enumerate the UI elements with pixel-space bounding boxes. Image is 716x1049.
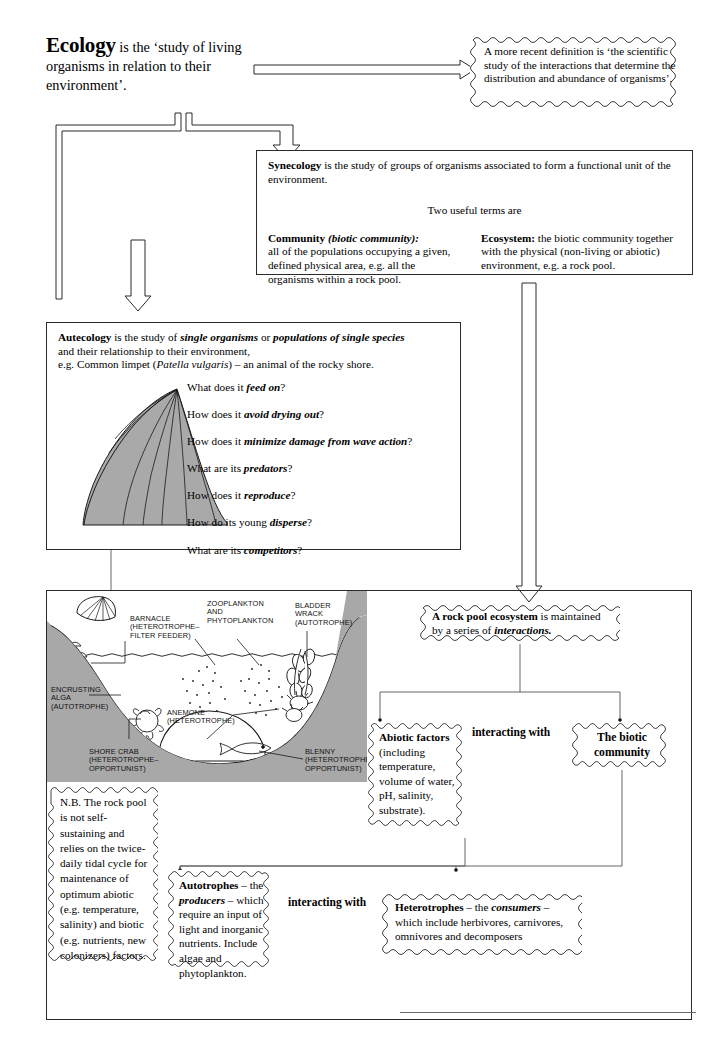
connector-abiotic-to-autotrophes xyxy=(180,838,470,870)
arrow-title-to-definition xyxy=(254,60,476,80)
consumers-emphasis: consumers xyxy=(491,901,541,913)
title-block: Ecology is the ‘study of living organism… xyxy=(46,36,266,95)
biotic-community-box: The biotic community xyxy=(572,722,672,770)
autecology-line3: e.g. Common limpet (Patella vulgaris) – … xyxy=(58,358,449,372)
ecosystem-term: Ecosystem: xyxy=(481,232,535,244)
arrow-synecology-to-rockpool-ecosystem xyxy=(516,283,550,603)
ecosystem-text: Ecosystem: the biotic community together… xyxy=(481,232,681,273)
nb-note-box: N.B. The rock pool is not self-sustainin… xyxy=(48,786,158,986)
autecology-lead: Autecology is the study of single organi… xyxy=(58,331,449,345)
page-bottom-rule xyxy=(400,1012,696,1013)
species-name: Patella vulgaris xyxy=(157,358,229,370)
nb-note-text: N.B. The rock pool is not self-sustainin… xyxy=(48,786,158,963)
autecology-line2: and their relationship to their environm… xyxy=(58,345,449,359)
rock-pool-ecosystem-box: A rock pool ecosystem is maintained by a… xyxy=(420,604,620,644)
biotic-community-title: The biotic community xyxy=(572,722,672,760)
autotrophes-tail: – which require an input of light and in… xyxy=(179,894,264,979)
synecology-lead: Synecology is the study of groups of org… xyxy=(268,159,681,186)
question-item: What are its predators? xyxy=(187,462,447,476)
interacting-with-lower: interacting with xyxy=(288,896,366,910)
question-item: What are its competitors? xyxy=(187,544,447,558)
autecology-example-tail: ) – an animal of the rocky shore. xyxy=(228,358,373,370)
illustration-label-barnacle: BARNACLE (HETEROTROPHE– FILTER FEEDER) xyxy=(130,615,200,640)
synecology-box: Synecology is the study of groups of org… xyxy=(256,150,693,275)
question-item: How does it avoid drying out? xyxy=(187,408,447,422)
recent-definition-box: A more recent definition is ‘the scienti… xyxy=(470,36,690,108)
rock-pool-ecosystem-text: A rock pool ecosystem is maintained by a… xyxy=(420,604,620,637)
two-useful-terms: Two useful terms are xyxy=(268,204,681,218)
producers-emphasis: producers xyxy=(179,894,225,906)
autecology-example-lead: e.g. Common limpet ( xyxy=(58,358,157,370)
heterotrophes-text: Heterotrophes – the consumers – which in… xyxy=(382,893,582,944)
interactions-emphasis: interactions. xyxy=(494,624,552,636)
arrow-to-autecology xyxy=(125,240,159,312)
community-heading: Community (biotic community): xyxy=(268,232,463,246)
autotrophes-box: Autotrophes – the producers – which requ… xyxy=(168,870,276,978)
recent-definition-text: A more recent definition is ‘the scienti… xyxy=(470,36,690,86)
autecology-questions: What does it feed on? How does it avoid … xyxy=(187,381,447,557)
community-term-italic: (biotic community): xyxy=(328,232,419,244)
illustration-label-bladder-wrack: BLADDER WRACK (AUTOTROPHE) xyxy=(295,602,352,627)
autecology-or: or xyxy=(261,331,270,343)
autotrophes-text: Autotrophes – the producers – which requ… xyxy=(168,870,276,980)
autecology-single-organisms: single organisms xyxy=(180,331,258,343)
illustration-label-shore-crab: SHORE CRAB (HETEROTROPHE– OPPORTUNIST) xyxy=(89,748,159,773)
autecology-line1a: is the study of xyxy=(114,331,177,343)
title-text: Ecology is the ‘study of living organism… xyxy=(46,36,266,95)
heterotrophes-box: Heterotrophes – the consumers – which in… xyxy=(382,893,582,960)
autecology-box: Autecology is the study of single organi… xyxy=(46,322,461,550)
question-item: How does it reproduce? xyxy=(187,489,447,503)
synecology-term: Synecology xyxy=(268,159,321,171)
connector-ecosystem-split xyxy=(370,644,630,722)
autecology-populations: populations of single species xyxy=(273,331,404,343)
question-item: How does it minimize damage from wave ac… xyxy=(187,435,447,449)
illustration-label-encrusting-alga: ENCRUSTING ALGA (AUTOTROPHE) xyxy=(51,686,108,711)
illustration-label-anemone: ANEMONE (HETEROTROPHE) xyxy=(167,709,235,726)
autotrophes-term: Autotrophes xyxy=(179,879,238,891)
community-term: Community xyxy=(268,232,325,244)
question-item: What does it feed on? xyxy=(187,381,447,395)
rock-pool-ecosystem-term: A rock pool ecosystem xyxy=(432,610,538,622)
page-title: Ecology xyxy=(46,33,116,57)
synecology-lead-text: is the study of groups of organisms asso… xyxy=(268,159,671,185)
abiotic-factors-title: Abiotic factors xyxy=(379,730,457,745)
rock-pool-illustration: BARNACLE (HETEROTROPHE– FILTER FEEDER) Z… xyxy=(47,591,367,782)
heterotrophes-term: Heterotrophes xyxy=(395,901,464,913)
question-item: How do its young disperse? xyxy=(187,516,447,530)
autecology-term: Autecology xyxy=(58,331,111,343)
community-text: all of the populations occupying a given… xyxy=(268,245,463,286)
interacting-with-upper: interacting with xyxy=(472,726,550,740)
illustration-label-zooplankton: ZOOPLANKTON AND PHYTOPLANKTON xyxy=(207,600,273,625)
